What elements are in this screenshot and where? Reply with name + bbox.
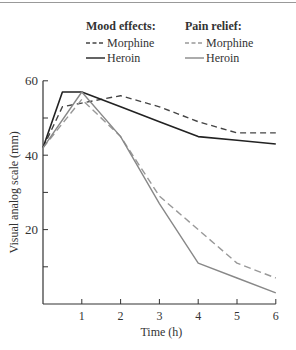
x-axis-label: Time (h) <box>140 325 182 339</box>
legend-group-title: Pain relief: <box>185 19 242 33</box>
legend-entry-label: Heroin <box>206 51 239 65</box>
x-tick-label: 5 <box>234 309 240 323</box>
y-tick-label: 40 <box>25 148 38 163</box>
y-axis-label: Visual analog scale (mm) <box>7 131 21 253</box>
legend-entry-label: Morphine <box>107 36 154 50</box>
series-line-2 <box>43 92 276 148</box>
legend-group-title: Mood effects: <box>86 19 156 33</box>
x-tick-label: 1 <box>79 309 85 323</box>
y-tick-label: 60 <box>25 73 38 88</box>
y-tick-label: 20 <box>25 222 38 237</box>
legend-entry-label: Morphine <box>206 36 253 50</box>
series-lines <box>43 92 276 293</box>
line-chart: Mood effects:MorphineHeroinPain relief:M… <box>0 0 296 350</box>
x-tick-label: 2 <box>118 309 124 323</box>
series-line-3 <box>43 99 276 278</box>
x-tick-label: 4 <box>195 309 201 323</box>
axes: 204060123456Time (h)Visual analog scale … <box>7 73 279 339</box>
legend: Mood effects:MorphineHeroinPain relief:M… <box>86 19 253 65</box>
x-tick-label: 3 <box>156 309 162 323</box>
x-tick-label: 6 <box>273 309 279 323</box>
legend-entry-label: Heroin <box>107 51 140 65</box>
